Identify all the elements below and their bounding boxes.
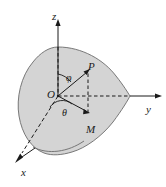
angle-phi-label: φ [66,73,72,83]
axis-label-x: x [21,167,26,178]
y-axis-arrowhead [155,93,162,98]
origin-label: O [47,89,55,100]
shaded-spherical-sector [18,47,130,155]
angle-theta-label: θ [62,108,67,118]
point-m-label: M [86,124,95,135]
x-axis-arrowhead [15,154,23,163]
figure-canvas [0,0,166,187]
spherical-coordinates-figure: z y x O P M φ θ [0,0,166,187]
point-p-label: P [88,61,95,72]
x-axis-solid-outer [22,148,35,157]
origin-dot [57,95,59,97]
axis-label-y: y [146,104,151,115]
axis-label-z: z [52,11,56,22]
